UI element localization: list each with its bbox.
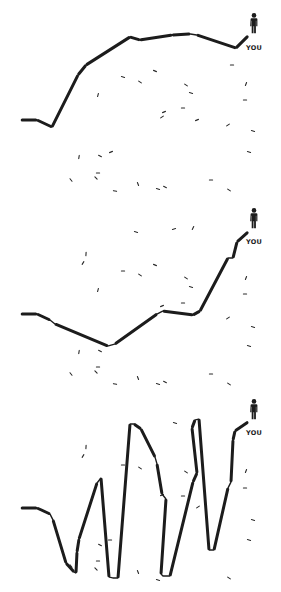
path-segment xyxy=(173,34,189,35)
progress-path xyxy=(22,419,247,578)
scatter-mark xyxy=(172,229,175,230)
path-segment xyxy=(199,420,209,549)
scatter-mark xyxy=(99,544,102,546)
scatter-mark xyxy=(245,277,246,280)
scatter-mark xyxy=(98,93,99,96)
scatter-mark xyxy=(95,177,97,179)
scatter-mark xyxy=(227,317,230,319)
scatter-mark xyxy=(139,467,142,469)
scatter-mark xyxy=(134,232,137,233)
scatter-mark xyxy=(185,84,188,86)
scatter-mark xyxy=(247,540,250,541)
path-segment xyxy=(214,489,227,549)
scatter-mark xyxy=(247,152,250,153)
scatter-mark xyxy=(189,287,192,288)
scatter-mark xyxy=(137,183,138,186)
path-segment xyxy=(118,425,130,577)
path-segment xyxy=(76,553,77,572)
scatter-mark xyxy=(79,350,80,353)
scatter-mark xyxy=(139,274,142,276)
path-segment xyxy=(87,38,129,65)
you-label: YOU xyxy=(245,44,262,52)
scatter-mark xyxy=(70,179,72,182)
scatter-mark xyxy=(137,571,138,574)
scatter-mark xyxy=(139,81,142,83)
path-segment xyxy=(193,474,196,481)
path-segment xyxy=(38,121,51,127)
path-segment xyxy=(142,430,155,456)
path-segment xyxy=(201,259,228,310)
scatter-mark xyxy=(154,264,157,265)
person-head xyxy=(252,399,257,404)
path-segment xyxy=(162,494,166,498)
path-segment xyxy=(135,425,140,429)
scatter-mark xyxy=(99,350,102,352)
path-segment xyxy=(190,34,196,35)
scatter-mark xyxy=(192,227,193,230)
scatter-mark xyxy=(173,423,176,424)
path-segment xyxy=(53,521,65,562)
path-segment xyxy=(79,484,96,538)
scatter-mark xyxy=(121,77,124,78)
path-segment xyxy=(198,35,235,47)
scatter-mark xyxy=(137,377,138,380)
scatter-mark xyxy=(245,83,246,86)
scatter-mark xyxy=(251,131,254,132)
path-segment xyxy=(164,311,192,315)
path-segment xyxy=(233,243,236,257)
person-head xyxy=(252,13,257,18)
scatter-mark xyxy=(189,93,192,94)
you-marker: YOU xyxy=(245,399,262,437)
path-segment xyxy=(108,344,114,346)
scatter-mark xyxy=(79,155,80,158)
scatter-mark xyxy=(197,506,200,508)
path-segment xyxy=(233,432,234,439)
path-segment xyxy=(79,66,86,74)
scatter-mark xyxy=(156,189,159,190)
scatter-marks xyxy=(70,65,255,191)
path-segment xyxy=(157,311,162,314)
path-segment xyxy=(53,76,78,126)
person-icon xyxy=(250,13,257,33)
scatter-mark xyxy=(95,371,97,373)
panel-dip-then-rise: YOU xyxy=(22,208,262,385)
scatter-mark xyxy=(247,346,250,347)
path-segment xyxy=(101,479,109,576)
you-marker: YOU xyxy=(245,208,262,246)
scatter-mark xyxy=(154,70,157,71)
scatter-mark xyxy=(99,155,102,157)
scatter-mark xyxy=(251,327,254,328)
scatter-mark xyxy=(98,288,99,291)
progress-path xyxy=(22,34,247,126)
person-body xyxy=(250,18,257,33)
path-segment xyxy=(155,457,157,463)
scatter-mark xyxy=(110,151,113,152)
person-icon xyxy=(250,399,257,419)
scatter-mark xyxy=(156,580,159,581)
path-segment xyxy=(192,429,197,472)
path-segment xyxy=(231,441,233,481)
scatter-mark xyxy=(196,119,199,120)
scatter-mark xyxy=(156,384,159,385)
scatter-marks xyxy=(70,227,255,385)
scatter-mark xyxy=(185,471,188,473)
path-segment xyxy=(161,500,166,573)
path-segment xyxy=(161,574,162,575)
path-segment xyxy=(170,483,192,575)
path-segment xyxy=(109,577,112,578)
scatter-mark xyxy=(82,455,84,458)
scatter-mark xyxy=(164,186,167,188)
person-head xyxy=(252,208,257,213)
path-segment xyxy=(50,320,54,324)
path-segment xyxy=(194,312,199,315)
path-segment xyxy=(131,37,139,39)
scatter-mark xyxy=(228,383,231,385)
scatter-mark xyxy=(251,520,254,521)
scatter-mark xyxy=(163,111,166,112)
path-segment xyxy=(56,324,107,345)
panel-volatile: YOU xyxy=(22,399,262,580)
scatter-mark xyxy=(113,384,116,385)
scatter-mark xyxy=(161,116,164,118)
path-segment xyxy=(38,509,49,514)
path-segment xyxy=(38,315,49,320)
